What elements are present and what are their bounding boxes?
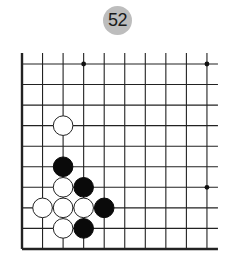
black-stone [74,178,94,198]
go-board-diagram [0,0,234,271]
star-point [205,62,210,67]
white-stone [74,198,94,218]
white-stone [53,198,73,218]
black-stone [53,157,73,177]
white-stone [53,116,73,136]
black-stone [94,198,114,218]
white-stone [53,178,73,198]
stones [33,116,114,238]
white-stone [53,219,73,239]
star-point [205,185,210,190]
white-stone [33,198,53,218]
star-point [81,62,86,67]
black-stone [74,219,94,239]
board-grid [22,53,218,249]
